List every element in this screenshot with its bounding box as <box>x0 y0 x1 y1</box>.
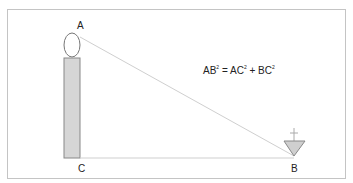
label-c: C <box>78 163 85 174</box>
pythagoras-diagram <box>0 0 353 183</box>
label-b: B <box>291 163 298 174</box>
point-b-triangle-icon <box>284 141 305 156</box>
eq-sup: 2 <box>272 64 275 70</box>
hypotenuse-ab <box>80 37 294 156</box>
person-head <box>64 33 80 57</box>
pythagorean-equation: AB2 = AC2 + BC2 <box>203 64 275 76</box>
label-a: A <box>77 20 84 31</box>
person-body <box>64 58 80 158</box>
eq-ac: = AC <box>219 65 244 76</box>
eq-ab: AB <box>203 65 216 76</box>
eq-bc: + BC <box>247 65 272 76</box>
